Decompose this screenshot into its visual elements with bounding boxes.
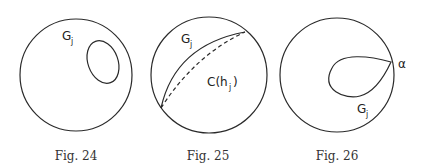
label-g: G (62, 29, 71, 43)
label-g-subscript: j (70, 37, 73, 46)
caption-fig-25: Fig. 25 (187, 149, 230, 163)
figure-24: G j Fig. 24 (20, 19, 132, 163)
outer-disk (280, 18, 394, 132)
dashed-arc-chj (161, 32, 245, 108)
inner-region-gj (81, 36, 124, 88)
figure-26: α G j Fig. 26 (280, 18, 406, 163)
outer-disk (20, 19, 132, 131)
label-g-subscript: j (189, 40, 192, 49)
caption-fig-26: Fig. 26 (316, 149, 359, 163)
label-g: G (181, 32, 190, 46)
label-g-subscript: j (365, 110, 368, 119)
figures-canvas: G j Fig. 24 G j C(h j ) Fig. 25 α G j Fi… (0, 0, 428, 168)
solid-arc-gj (161, 32, 245, 108)
teardrop-region-gj (329, 57, 391, 97)
label-c-h-subscript: j (228, 83, 231, 92)
label-c-h-close: ) (233, 75, 238, 89)
label-alpha: α (398, 57, 406, 71)
label-g: G (357, 102, 366, 116)
label-c-h: C(h (207, 75, 228, 89)
caption-fig-24: Fig. 24 (55, 149, 98, 163)
figure-25: G j C(h j ) Fig. 25 (151, 17, 267, 163)
